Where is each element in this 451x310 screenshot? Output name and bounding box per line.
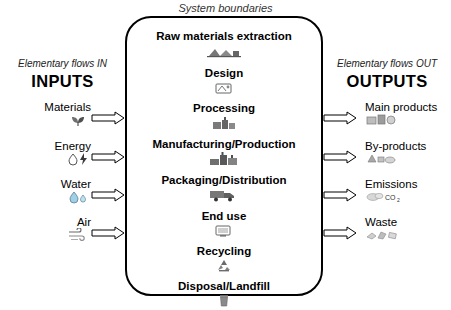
- output-row-main-products: Main products: [323, 100, 451, 136]
- stage-end-use: End use: [125, 210, 323, 239]
- stage-processing: Processing: [125, 102, 323, 131]
- product-box-icon: [365, 113, 391, 135]
- drafting-icon: [125, 81, 323, 96]
- stage-label: Processing: [125, 102, 323, 115]
- outputs-title: OUTPUTS: [323, 72, 451, 91]
- stage-raw-materials-extraction: Raw materials extraction: [125, 30, 323, 59]
- output-label: Emissions: [365, 178, 417, 190]
- output-arrow: [323, 226, 357, 240]
- input-label: Energy: [55, 140, 91, 152]
- output-arrow: [323, 111, 357, 125]
- stage-recycling: Recycling: [125, 245, 323, 274]
- truck-icon: [125, 188, 323, 203]
- bin-icon: [125, 294, 323, 309]
- stage-label: Design: [125, 67, 323, 80]
- input-label: Water: [61, 178, 91, 190]
- output-label: Main products: [365, 101, 437, 113]
- recycle-icon: [125, 259, 323, 274]
- plant-icon: [125, 152, 323, 167]
- svg-text:2: 2: [397, 197, 400, 203]
- input-arrow: [91, 150, 125, 164]
- stage-label: End use: [125, 210, 323, 223]
- svg-text:CO: CO: [385, 194, 396, 201]
- stage-label: Disposal/Landfill: [125, 280, 323, 293]
- lifecycle-stage-list: Raw materials extraction Design: [125, 22, 323, 294]
- stage-label: Manufacturing/Production: [125, 138, 323, 151]
- stage-packaging-distribution: Packaging/Distribution: [125, 174, 323, 203]
- water-drops-icon: [65, 190, 91, 212]
- input-arrow: [91, 111, 125, 125]
- input-label: Air: [77, 216, 91, 228]
- energy-drop-bolt-icon: [65, 152, 91, 174]
- input-arrow: [91, 226, 125, 240]
- factory-icon: [125, 116, 323, 131]
- output-row-by-products: By-products: [323, 139, 451, 175]
- diagram-canvas: System boundaries Raw materials extracti…: [0, 0, 451, 310]
- material-sample-icon: [65, 113, 91, 135]
- emissions-cloud-icon: CO 2: [365, 190, 413, 212]
- air-swirl-icon: [65, 228, 91, 250]
- output-arrow: [323, 150, 357, 164]
- inputs-column: Elementary flows IN INPUTS Materials: [0, 0, 125, 310]
- output-label: Waste: [365, 216, 397, 228]
- output-row-emissions: Emissions CO 2: [323, 177, 451, 213]
- inputs-title: INPUTS: [0, 72, 125, 91]
- waste-icon: [365, 228, 409, 250]
- outputs-subtitle: Elementary flows OUT: [323, 58, 451, 69]
- stage-manufacturing-production: Manufacturing/Production: [125, 138, 323, 167]
- input-row-water: Water: [6, 177, 125, 213]
- stage-design: Design: [125, 67, 323, 96]
- input-arrow: [91, 188, 125, 202]
- stage-label: Raw materials extraction: [125, 30, 323, 43]
- inputs-subtitle: Elementary flows IN: [0, 58, 125, 69]
- output-arrow: [323, 188, 357, 202]
- use-icon: [125, 224, 323, 239]
- stage-label: Recycling: [125, 245, 323, 258]
- stage-label: Packaging/Distribution: [125, 174, 323, 187]
- input-row-air: Air: [6, 215, 125, 251]
- input-row-materials: Materials: [6, 100, 125, 136]
- output-label: By-products: [365, 140, 426, 152]
- input-label: Materials: [44, 101, 91, 113]
- output-row-waste: Waste: [323, 215, 451, 251]
- byproduct-icon: [365, 152, 391, 174]
- quarry-icon: [125, 44, 323, 59]
- stage-disposal-landfill: Disposal/Landfill: [125, 280, 323, 309]
- input-row-energy: Energy: [6, 139, 125, 175]
- outputs-column: Elementary flows OUT OUTPUTS Main produc…: [323, 0, 451, 310]
